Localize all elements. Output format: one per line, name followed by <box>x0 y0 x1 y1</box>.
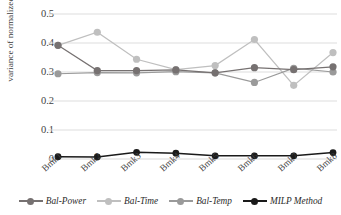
data-point <box>290 66 297 73</box>
legend-item-bal-power[interactable]: Bal-Power <box>19 196 86 206</box>
legend-dot-icon <box>27 198 34 205</box>
data-point <box>172 66 179 73</box>
data-point <box>251 64 258 71</box>
data-point <box>329 63 336 70</box>
data-point <box>54 70 61 77</box>
data-point <box>133 56 140 63</box>
data-point <box>54 42 61 49</box>
legend-marker-icon <box>243 196 267 206</box>
data-point <box>212 62 219 69</box>
series-bal-time <box>54 29 336 89</box>
legend-marker-icon <box>97 196 121 206</box>
data-point <box>212 69 219 76</box>
chart-legend: Bal-PowerBal-TimeBal-TempMILP Method <box>0 190 341 212</box>
legend-label: MILP Method <box>270 196 322 206</box>
data-point <box>251 79 258 86</box>
data-point <box>290 82 297 89</box>
series-line <box>58 32 333 85</box>
legend-label: Bal-Time <box>124 196 158 206</box>
legend-label: Bal-Temp <box>196 196 232 206</box>
legend-dot-icon <box>105 198 112 205</box>
data-point <box>94 29 101 36</box>
legend-item-bal-time[interactable]: Bal-Time <box>97 196 158 206</box>
data-point <box>133 67 140 74</box>
legend-dot-icon <box>251 198 258 205</box>
legend-label: Bal-Power <box>46 196 86 206</box>
chart-container: variance of normalized MTTs 00.10.20.30.… <box>0 0 341 215</box>
data-point <box>94 67 101 74</box>
legend-dot-icon <box>177 198 184 205</box>
legend-marker-icon <box>19 196 43 206</box>
legend-item-bal-temp[interactable]: Bal-Temp <box>169 196 232 206</box>
legend-item-milp-method[interactable]: MILP Method <box>243 196 322 206</box>
series-bal-power <box>54 42 336 77</box>
data-point <box>251 36 258 43</box>
plot-area <box>0 0 341 215</box>
data-point <box>329 49 336 56</box>
plot-svg <box>0 0 341 215</box>
legend-marker-icon <box>169 196 193 206</box>
